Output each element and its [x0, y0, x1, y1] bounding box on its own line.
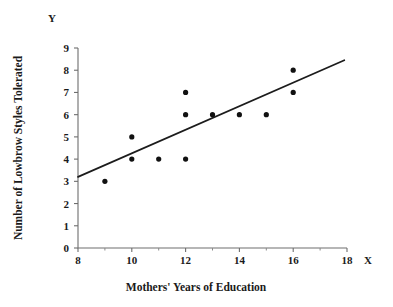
axis-lines	[78, 48, 347, 248]
y-tick-label: 5	[64, 131, 70, 143]
data-point	[210, 112, 215, 117]
x-tick-label: 14	[234, 254, 246, 266]
y-tick-label: 2	[64, 198, 70, 210]
data-point	[102, 179, 107, 184]
data-point	[183, 157, 188, 162]
data-point	[237, 112, 242, 117]
x-axis-name-label: X	[364, 254, 372, 266]
y-tick-labels-group: 0123456789	[64, 42, 70, 254]
y-tick-label: 9	[64, 42, 70, 54]
x-tick-label: 18	[342, 254, 354, 266]
y-tick-label: 7	[64, 86, 70, 98]
y-tick-label: 4	[64, 153, 70, 165]
regression-trend-line	[78, 60, 344, 177]
y-tick-label: 8	[64, 64, 70, 76]
data-point	[291, 90, 296, 95]
data-point	[129, 157, 134, 162]
data-point	[183, 112, 188, 117]
axes-group	[74, 48, 347, 252]
x-tick-labels-group: 81012141618	[75, 254, 353, 266]
tick-marks-group	[74, 48, 347, 252]
y-axis-title: Number of Lowbrow Styles Tolerated	[12, 55, 25, 240]
chart-canvas: 81012141618 0123456789 X Y Mothers' Year…	[0, 0, 393, 307]
y-tick-label: 0	[64, 242, 70, 254]
data-point	[264, 112, 269, 117]
data-point	[291, 68, 296, 73]
data-points-group	[102, 68, 296, 184]
data-point	[183, 90, 188, 95]
scatter-plot-figure: 81012141618 0123456789 X Y Mothers' Year…	[0, 0, 393, 307]
y-axis-name-label: Y	[48, 12, 56, 24]
x-tick-label: 8	[75, 254, 81, 266]
data-point	[129, 134, 134, 139]
data-point	[156, 157, 161, 162]
x-axis-title: Mothers' Years of Education	[126, 281, 267, 293]
y-tick-label: 6	[64, 109, 70, 121]
y-tick-label: 3	[64, 175, 70, 187]
x-tick-label: 10	[126, 254, 138, 266]
x-tick-label: 16	[288, 254, 300, 266]
y-tick-label: 1	[64, 220, 70, 232]
x-tick-label: 12	[180, 254, 192, 266]
